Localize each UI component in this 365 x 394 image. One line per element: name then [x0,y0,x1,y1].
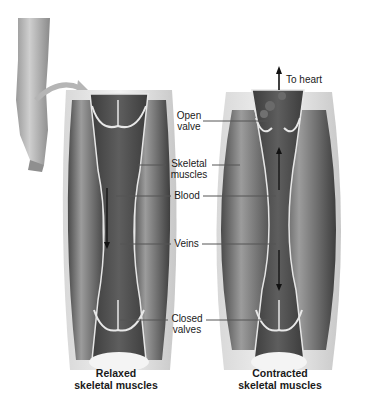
contracted-panel [216,90,341,372]
veins-label: Veins [171,238,202,249]
relaxed-panel [63,90,177,372]
relaxed-caption: Relaxed skeletal muscles [58,367,174,391]
open-valve-label: Open valve [174,110,204,132]
to-heart-arrow-icon [276,66,282,90]
skeletal-muscles-label: Skeletal muscles [166,158,212,180]
blood-label: Blood [171,190,203,201]
contracted-caption: Contracted skeletal muscles [222,367,338,391]
closed-valves-label: Closed valves [168,313,206,335]
to-heart-label: To heart [286,74,322,85]
